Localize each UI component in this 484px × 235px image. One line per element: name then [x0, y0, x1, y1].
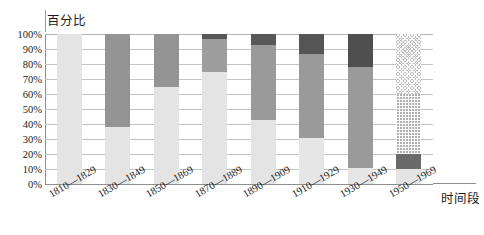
y-axis-title: 百分比	[47, 10, 86, 29]
bar[interactable]	[299, 34, 324, 184]
percentage-stacked-bar-chart: 百分比 100%90%80%70%60%50%40%30%20%10%0% 时间…	[0, 0, 484, 235]
bar-segment	[396, 94, 421, 154]
bar[interactable]	[396, 34, 421, 184]
gridline-90	[45, 49, 433, 50]
bar-segment	[154, 87, 179, 185]
bar-segment	[202, 72, 227, 185]
bar[interactable]	[251, 34, 276, 184]
bar-segment	[251, 34, 276, 45]
gridline-60	[45, 94, 433, 95]
gridline-50	[45, 109, 433, 110]
bar-segment	[202, 34, 227, 39]
y-tick-label: 90%	[2, 44, 42, 55]
y-tick-label: 60%	[2, 89, 42, 100]
bar[interactable]	[57, 34, 82, 184]
y-tick-label: 10%	[2, 164, 42, 175]
bar-segment	[299, 54, 324, 138]
y-tick-label: 40%	[2, 119, 42, 130]
plot-area	[45, 34, 433, 184]
x-axis-title: 时间段	[441, 188, 480, 207]
bar-segment	[154, 34, 179, 87]
y-tick-label: 80%	[2, 59, 42, 70]
gridline-30	[45, 139, 433, 140]
y-tick-label: 50%	[2, 104, 42, 115]
gridline-80	[45, 64, 433, 65]
bar-segment	[299, 34, 324, 54]
gridline-70	[45, 79, 433, 80]
bar[interactable]	[154, 34, 179, 184]
bar-segment	[396, 154, 421, 169]
y-axis-title-rule	[45, 10, 46, 32]
y-axis-tick-labels: 100%90%80%70%60%50%40%30%20%10%0%	[0, 34, 42, 184]
y-tick-label: 70%	[2, 74, 42, 85]
gridline-20	[45, 154, 433, 155]
bar[interactable]	[202, 34, 227, 184]
bar-segment	[202, 39, 227, 72]
y-tick-label: 30%	[2, 134, 42, 145]
bar-segment	[251, 45, 276, 120]
bar-segment	[396, 34, 421, 94]
bar-segment	[57, 34, 82, 184]
y-tick-label: 0%	[2, 179, 42, 190]
y-tick-label: 100%	[2, 29, 42, 40]
bar-segment	[105, 34, 130, 127]
x-axis-line-extension	[433, 183, 476, 184]
bar-segment	[348, 67, 373, 168]
bar[interactable]	[348, 34, 373, 184]
gridline-40	[45, 124, 433, 125]
gridline-100	[45, 34, 433, 35]
y-tick-label: 20%	[2, 149, 42, 160]
bar[interactable]	[105, 34, 130, 184]
bar-segment	[348, 34, 373, 67]
